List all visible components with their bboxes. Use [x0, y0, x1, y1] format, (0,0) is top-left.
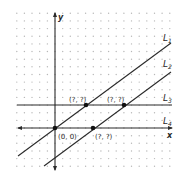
- label-l2-l4: (?, ?): [95, 133, 113, 141]
- line-l2: [44, 72, 171, 166]
- label-l1: L1: [163, 33, 172, 44]
- label-l2: L2: [163, 59, 172, 70]
- point-l2-l4: [91, 126, 96, 131]
- coordinate-plane-diagram: (0, 0) (?, ?) (?, ?) (?, ?) y x L1 L2 L3…: [0, 0, 184, 177]
- x-axis-label: x: [166, 131, 173, 140]
- label-origin: (0, 0): [58, 133, 77, 141]
- point-origin: [53, 126, 58, 131]
- label-l4: L4: [163, 116, 172, 127]
- label-l1-l3: (?, ?): [69, 96, 87, 104]
- y-axis-label: y: [58, 13, 64, 22]
- label-l2-l3: (?, ?): [107, 96, 125, 104]
- label-l3: L3: [163, 93, 172, 104]
